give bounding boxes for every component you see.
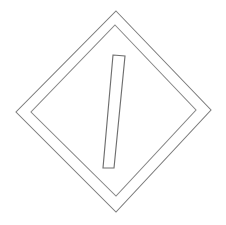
canvas-background [0,0,226,225]
drawing-canvas: Black-and-white line drawing of a diamon… [0,0,226,225]
placard-line-drawing [0,0,226,225]
